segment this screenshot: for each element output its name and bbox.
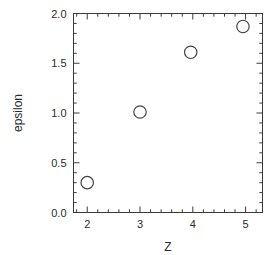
y-tick-label: 1.0 — [51, 107, 66, 119]
x-tick-label: 3 — [137, 218, 143, 230]
x-tick-label: 5 — [243, 218, 249, 230]
data-point-marker — [81, 176, 93, 188]
y-tick-label: 2.0 — [51, 8, 66, 20]
y-tick-label: 0.0 — [51, 207, 66, 219]
y-axis-title: epsilon — [11, 94, 25, 132]
x-tick-label: 2 — [84, 218, 90, 230]
x-tick-label: 4 — [190, 218, 196, 230]
scatter-plot-figure: 23450.00.51.01.52.0Zepsilon — [0, 0, 272, 255]
data-point-marker — [134, 106, 146, 118]
x-axis-title: Z — [164, 240, 171, 254]
plot-canvas: 23450.00.51.01.52.0Zepsilon — [0, 0, 272, 255]
data-point-marker — [185, 46, 197, 58]
plot-frame — [74, 14, 263, 213]
y-tick-label: 0.5 — [51, 157, 66, 169]
data-point-marker — [237, 20, 249, 32]
y-tick-label: 1.5 — [51, 57, 66, 69]
